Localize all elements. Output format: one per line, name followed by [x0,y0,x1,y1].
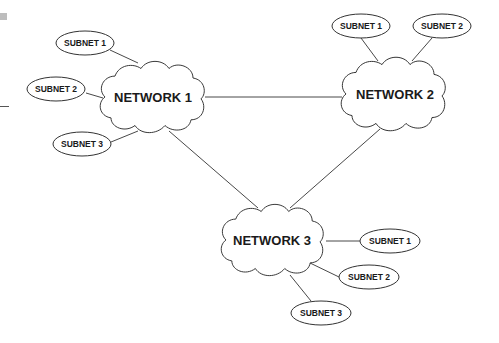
link-n3-subnet2 [308,262,339,277]
link-network2-network3 [290,129,380,208]
n1-subnet-1[interactable]: SUBNET 1 [56,31,114,55]
n2-subnet-1-label: SUBNET 1 [340,21,382,31]
n1-subnet-3-label: SUBNET 3 [61,139,103,149]
n1-subnet-2[interactable]: SUBNET 2 [27,77,85,101]
n1-subnet-3[interactable]: SUBNET 3 [53,132,111,156]
link-n3-subnet3 [290,275,311,301]
n3-subnet-3-label: SUBNET 3 [300,308,342,318]
n1-subnet-1-label: SUBNET 1 [64,38,106,48]
n3-subnet-2[interactable]: SUBNET 2 [339,265,399,289]
network-1-label: NETWORK 1 [114,90,192,105]
link-network1-network3 [169,131,258,208]
n3-subnet-1-label: SUBNET 1 [369,236,411,246]
link-n2-subnet2 [412,38,432,61]
network-3-label: NETWORK 3 [233,233,311,248]
link-n1-subnet2 [86,93,103,98]
n1-subnet-2-label: SUBNET 2 [35,84,77,94]
link-n1-subnet3 [111,131,138,142]
network-diagram: NETWORK 1 NETWORK 2 NETWORK 3 SUBNET 1 S… [0,0,499,343]
link-n1-subnet1 [110,50,138,63]
link-n2-subnet1 [361,38,378,61]
n2-subnet-1[interactable]: SUBNET 1 [332,14,390,38]
network-2-label: NETWORK 2 [356,87,434,102]
n3-subnet-2-label: SUBNET 2 [348,272,390,282]
n2-subnet-2-label: SUBNET 2 [421,21,463,31]
n2-subnet-2[interactable]: SUBNET 2 [413,14,471,38]
n3-subnet-1[interactable]: SUBNET 1 [360,229,420,253]
n3-subnet-3[interactable]: SUBNET 3 [291,301,351,325]
